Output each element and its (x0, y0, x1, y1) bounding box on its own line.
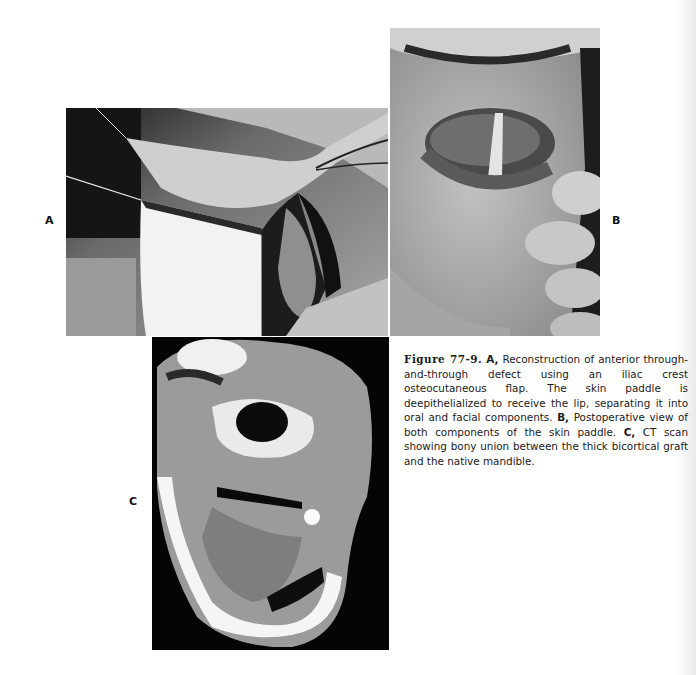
caption-part-b-label: B, (557, 411, 569, 423)
ct-scan-image (152, 337, 389, 650)
panel-a-surgical-photo (66, 108, 388, 336)
panel-c-ct-scan (152, 337, 389, 650)
panel-label-c: C (129, 495, 137, 508)
postoperative-lip-image (390, 28, 600, 336)
panel-label-b: B (612, 214, 620, 227)
panel-b-postoperative-photo (390, 28, 600, 336)
panel-label-a: A (45, 214, 54, 227)
surgical-photo-image (66, 108, 388, 336)
caption-part-a-label: A, (486, 353, 498, 365)
figure-caption: Figure 77-9. A, Reconstruction of anteri… (404, 352, 688, 468)
page-edge-shadow (676, 0, 696, 675)
figure-number: Figure 77-9. (404, 353, 482, 365)
caption-part-c-label: C, (624, 426, 636, 438)
